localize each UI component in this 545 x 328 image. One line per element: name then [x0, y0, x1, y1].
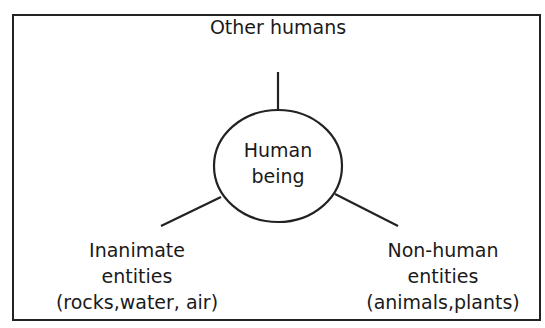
- left-label-line2: entities: [52, 263, 222, 289]
- node-non-human-entities: Non-human entities (animals,plants): [358, 237, 528, 315]
- node-inanimate-entities: Inanimate entities (rocks,water, air): [52, 237, 222, 315]
- node-other-humans: Other humans: [178, 14, 378, 40]
- left-label-line3: (rocks,water, air): [52, 289, 222, 315]
- right-label-line3: (animals,plants): [358, 289, 528, 315]
- right-label-line2: entities: [358, 263, 528, 289]
- node-other-humans-label: Other humans: [210, 16, 346, 38]
- left-label-line1: Inanimate: [52, 237, 222, 263]
- center-label-line2: being: [218, 163, 338, 189]
- right-label-line1: Non-human: [358, 237, 528, 263]
- center-label-line1: Human: [218, 137, 338, 163]
- connector-right: [335, 194, 398, 226]
- connector-left: [161, 197, 221, 226]
- node-human-being: Human being: [218, 137, 338, 189]
